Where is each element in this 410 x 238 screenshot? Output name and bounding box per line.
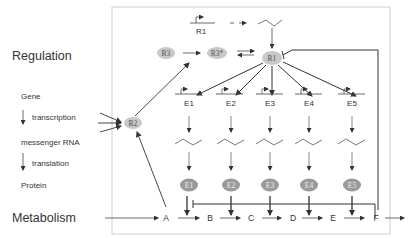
svg-text:E2: E2 [226,99,236,108]
input-arrow-3 [100,126,121,132]
legend-transcription: transcription [32,113,76,122]
expression-column-1 [175,116,202,170]
mrna-icon [338,139,365,145]
r1-to-e1-arrow [197,63,263,95]
gene-e3: E3 [256,89,283,108]
legend-mrna: messenger RNA [21,138,80,147]
svg-text:E1: E1 [184,99,194,108]
pathway-diagram: Regulation Metabolism Gene transcription… [0,0,410,238]
r1-gene-label: R1 [196,27,207,36]
a-to-r2-arrow [137,132,166,207]
legend: Gene transcription messenger RNA transla… [21,92,80,190]
pathway-frame [112,7,390,234]
r1-label: R1 [268,54,277,63]
metabolite-e: E [330,213,336,223]
f-to-e1-inhibition-line [193,204,375,218]
gene-e5: E5 [338,89,365,108]
metabolite-a: A [163,213,169,223]
metabolite-f: F [373,213,378,223]
r3-active-label: R3* [211,49,224,58]
metabolite-b: B [207,213,213,223]
legend-translation: translation [32,159,69,168]
expression-column-5 [338,116,365,170]
expression-column-4 [295,116,322,170]
svg-text:E4: E4 [305,181,314,190]
input-arrow-1 [100,113,121,122]
regulation-label: Regulation [12,49,72,63]
svg-text:E2: E2 [227,181,236,190]
svg-text:E5: E5 [348,181,357,190]
r1-to-e4-arrow [278,65,312,96]
legend-gene: Gene [21,92,41,101]
metabolite-c: C [248,213,254,223]
gene-e4: E4 [295,89,322,108]
r1-mrna-icon [258,20,282,26]
mrna-icon [256,139,283,145]
f-feedback-line [283,50,378,210]
svg-text:E4: E4 [304,99,314,108]
gene-e1: E1 [175,89,202,108]
r3-label: R3 [162,49,171,58]
expression-column-3 [256,116,283,170]
r1-gene: R1 [190,17,215,36]
enzyme-row: E1 E2 E3 E4 E5 [180,179,361,192]
metabolism-label: Metabolism [12,211,76,225]
svg-text:E5: E5 [347,99,357,108]
mrna-icon [217,139,244,145]
mrna-icon [175,139,202,145]
legend-protein: Protein [21,181,46,190]
r1-to-e2-arrow [236,65,266,95]
mrna-icon [295,139,322,145]
svg-text:E3: E3 [266,181,275,190]
svg-text:E1: E1 [185,181,194,190]
r2-label: R2 [129,119,138,128]
metabolite-d: D [290,213,296,223]
svg-text:E3: E3 [265,99,275,108]
expression-column-2 [217,116,244,170]
